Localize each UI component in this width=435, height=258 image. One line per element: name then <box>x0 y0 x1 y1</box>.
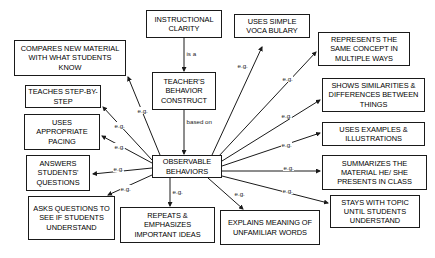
node-represents-same-concept[interactable]: REPRESENTS THE SAME CONCEPT IN MULTIPLE … <box>318 32 410 66</box>
node-answers-students-questions[interactable]: ANSWERS STUDENTS' QUESTIONS <box>26 155 90 191</box>
edge-label-eg-summarizes: e.g. <box>283 164 294 171</box>
edge-label-eg-teaches: e.g. <box>114 122 125 129</box>
edge-observable-to-pacing <box>102 136 152 163</box>
node-label: STAYS WITH TOPIC UNTIL STUDENTS UNDERSTA… <box>333 198 417 226</box>
node-label: OBSERVABLE BEHAVIORS <box>155 157 219 175</box>
edge-label-eg-answers: e.g. <box>113 165 124 172</box>
node-label: USES APPROPRIATE PACING <box>27 118 97 146</box>
node-summarizes-material[interactable]: SUMMARIZES THE MATERIAL HE/ SHE PRESENTS… <box>322 155 427 190</box>
edge-label-text: e.g. <box>115 143 125 150</box>
node-label: USES SIMPLE VOCA BULARY <box>237 17 307 35</box>
node-uses-examples[interactable]: USES EXAMPLES & ILLUSTRATIONS <box>322 122 425 146</box>
node-uses-appropriate-pacing[interactable]: USES APPROPRIATE PACING <box>24 114 100 150</box>
edge-label-is-a: is a <box>186 50 197 57</box>
node-label: REPEATS & EMPHASIZES IMPORTANT IDEAS <box>123 211 212 239</box>
edge-label-eg-similarities: e.g. <box>281 112 292 119</box>
node-compares-new-material[interactable]: COMPARES NEW MATERIAL WITH WHAT STUDENTS… <box>14 40 126 76</box>
node-shows-similarities[interactable]: SHOWS SIMILARITIES & DIFFERENCES BETWEEN… <box>322 78 425 112</box>
node-asks-questions-to-see[interactable]: ASKS QUESTIONS TO SEE IF STUDENTS UNDERS… <box>28 196 115 240</box>
concept-map-canvas: INSTRUCTIONAL CLARITY TEACHER'S BEHAVIOR… <box>0 0 435 258</box>
edge-label-text: e.g. <box>173 188 183 195</box>
node-repeats-emphasizes[interactable]: REPEATS & EMPHASIZES IMPORTANT IDEAS <box>120 207 215 243</box>
node-label: ANSWERS STUDENTS' QUESTIONS <box>29 159 87 187</box>
edge-label-text: e.g. <box>283 75 293 82</box>
node-label: SUMMARIZES THE MATERIAL HE/ SHE PRESENTS… <box>325 159 424 187</box>
edge-label-text: e.g. <box>282 112 292 119</box>
edge-observable-to-teaches <box>103 107 152 160</box>
node-teachers-behavior-construct[interactable]: TEACHER'S BEHAVIOR CONSTRUCT <box>152 72 216 110</box>
node-instructional-clarity[interactable]: INSTRUCTIONAL CLARITY <box>146 10 222 38</box>
edge-observable-to-represents <box>218 52 316 157</box>
node-label: TEACHER'S BEHAVIOR CONSTRUCT <box>155 77 213 105</box>
edge-label-eg-represents: e.g. <box>282 75 293 82</box>
edge-label-text: e.g. <box>238 62 248 69</box>
edge-label-eg-vocabulary: e.g. <box>237 62 248 69</box>
edge-label-text: e.g. <box>138 107 148 114</box>
edge-observable-to-examples <box>222 133 320 166</box>
edge-label-text: e.g. <box>115 122 125 129</box>
edge-observable-to-similarities <box>222 100 320 161</box>
edge-label-eg-compares: e.g. <box>137 107 148 114</box>
edge-label-text: e.g. <box>121 185 131 192</box>
edge-label-based-on: based on <box>186 118 212 125</box>
edge-label-text: is a <box>187 50 197 57</box>
edge-label-text: e.g. <box>235 190 245 197</box>
node-label: INSTRUCTIONAL CLARITY <box>149 15 219 33</box>
edge-label-eg-asks: e.g. <box>120 185 131 192</box>
node-label: COMPARES NEW MATERIAL WITH WHAT STUDENTS… <box>17 44 123 72</box>
edge-label-eg-examples: e.g. <box>281 141 292 148</box>
edge-label-eg-repeats: e.g. <box>172 188 183 195</box>
node-label: TEACHES STEP-BY-STEP <box>28 87 98 105</box>
edge-label-text: e.g. <box>114 165 124 172</box>
node-label: USES EXAMPLES & ILLUSTRATIONS <box>325 125 422 143</box>
node-label: EXPLAINS MEANING OF UNFAMILIAR WORDS <box>223 218 317 236</box>
node-observable-behaviors[interactable]: OBSERVABLE BEHAVIORS <box>152 155 222 178</box>
node-label: ASKS QUESTIONS TO SEE IF STUDENTS UNDERS… <box>31 204 112 232</box>
node-teaches-step-by-step[interactable]: TEACHES STEP-BY-STEP <box>25 85 101 108</box>
edge-label-text-line2: on <box>205 118 212 125</box>
edge-label-eg-explains: e.g. <box>234 190 245 197</box>
edge-label-text: e.g. <box>283 187 293 194</box>
edge-label-eg-pacing: e.g. <box>114 143 125 150</box>
edge-label-text-line1: based <box>187 118 204 125</box>
node-label: REPRESENTS THE SAME CONCEPT IN MULTIPLE … <box>321 35 407 63</box>
node-stays-with-topic[interactable]: STAYS WITH TOPIC UNTIL STUDENTS UNDERSTA… <box>330 195 420 228</box>
node-explains-meaning[interactable]: EXPLAINS MEANING OF UNFAMILIAR WORDS <box>220 210 320 245</box>
edge-label-text: e.g. <box>282 141 292 148</box>
node-label: SHOWS SIMILARITIES & DIFFERENCES BETWEEN… <box>325 81 422 109</box>
node-uses-simple-vocabulary[interactable]: USES SIMPLE VOCA BULARY <box>234 14 310 38</box>
edge-label-eg-stays: e.g. <box>282 187 293 194</box>
edge-label-text: e.g. <box>284 164 294 171</box>
